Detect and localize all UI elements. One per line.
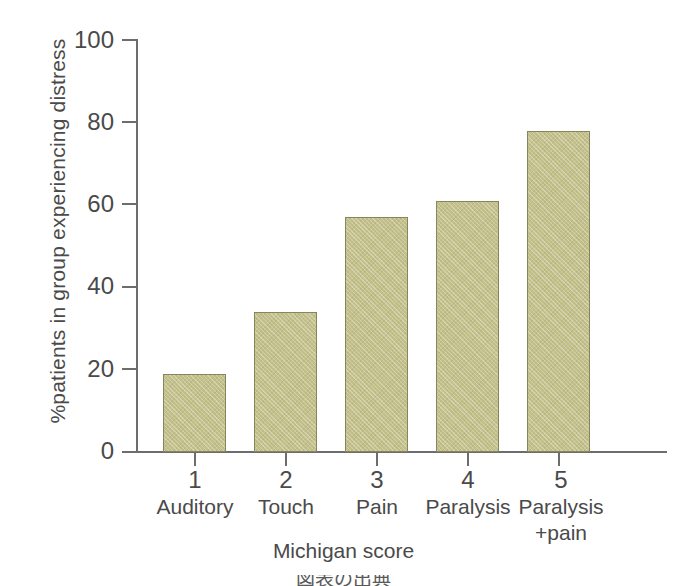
x-tick-mark-2 — [285, 452, 287, 466]
x-category-5-label: Paralysis — [499, 494, 623, 520]
bar-chart-figure: %patients in group experiencing distress… — [0, 0, 687, 586]
x-tick-mark-5 — [558, 452, 560, 466]
bar-1 — [163, 374, 226, 452]
x-tick-mark-3 — [376, 452, 378, 466]
y-tick-label-40: 40 — [54, 274, 114, 298]
y-tick-label-40-wrap: 40 — [48, 274, 114, 298]
x-tick-mark-4 — [467, 452, 469, 466]
y-tick-label-60-wrap: 60 — [48, 192, 114, 216]
y-tick-label-80: 80 — [54, 110, 114, 134]
y-tick-label-20: 20 — [54, 357, 114, 381]
y-tick-mark-20 — [122, 368, 137, 370]
y-tick-label-0-wrap: 0 — [48, 439, 114, 463]
y-tick-label-0: 0 — [54, 439, 114, 463]
y-tick-label-100-wrap: 100 — [48, 28, 114, 52]
x-tick-mark-1 — [194, 452, 196, 466]
bar-5 — [527, 131, 590, 452]
y-tick-label-60: 60 — [54, 192, 114, 216]
x-axis-title: Michigan score — [0, 539, 687, 563]
y-axis-title: %patients in group experiencing distress — [46, 11, 70, 451]
cropped-caption-text: 図表の出典 — [0, 575, 687, 586]
bar-3 — [345, 217, 408, 452]
y-tick-label-20-wrap: 20 — [48, 357, 114, 381]
y-tick-label-80-wrap: 80 — [48, 110, 114, 134]
x-category-5-number: 5 — [499, 466, 623, 494]
y-tick-mark-80 — [122, 121, 137, 123]
y-tick-label-100: 100 — [54, 28, 114, 52]
bar-4 — [436, 201, 499, 452]
x-category-5: 5 Paralysis +pain — [499, 466, 623, 546]
y-tick-mark-100 — [122, 39, 137, 41]
cropped-caption-strip: 図表の出典 — [0, 575, 687, 586]
bar-2 — [254, 312, 317, 452]
y-tick-mark-60 — [122, 203, 137, 205]
plot-area — [136, 40, 664, 452]
y-tick-mark-40 — [122, 286, 137, 288]
